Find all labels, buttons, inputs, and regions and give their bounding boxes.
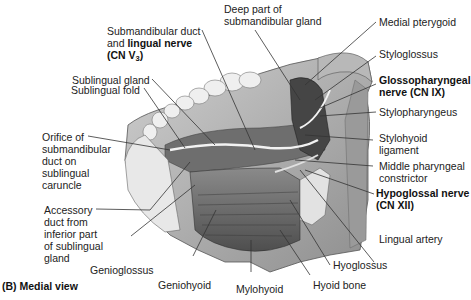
label-hypoglossal-nerve: Hypoglossal nerve (CN XII) <box>376 187 469 211</box>
label-genioglossus: Genioglossus <box>90 264 154 276</box>
label-hyoid-bone: Hyoid bone <box>313 279 366 291</box>
label-accessory-duct: Accessory duct from inferior part of sub… <box>44 204 103 264</box>
anatomy-figure: Submandibular duct and lingual nerve (CN… <box>0 0 471 300</box>
label-medial-pterygoid: Medial pterygoid <box>379 16 456 28</box>
label-mylohyoid: Mylohyoid <box>236 283 283 295</box>
label-orifice-submandibular-duct: Orifice of submandibular duct on subling… <box>42 131 111 191</box>
panel-label: (B) Medial view <box>2 280 78 292</box>
label-submandibular-duct: Submandibular duct and lingual nerve (CN… <box>107 25 200 61</box>
label-deep-part-submandibular-gland: Deep part of submandibular gland <box>224 3 321 27</box>
label-styloglossus: Styloglossus <box>379 48 438 60</box>
label-hyoglossus: Hyoglossus <box>333 259 387 271</box>
label-geniohyoid: Geniohyoid <box>158 279 211 291</box>
label-glossopharyngeal-nerve: Glossopharyngeal nerve (CN IX) <box>379 74 471 98</box>
label-stylopharyngeus: Stylopharyngeus <box>379 106 457 118</box>
label-stylohyoid-ligament: Stylohyoid ligament <box>379 132 427 156</box>
label-middle-pharyngeal-constrictor: Middle pharyngeal constrictor <box>379 160 465 184</box>
label-lingual-artery: Lingual artery <box>379 233 443 245</box>
label-sublingual-fold: Sublingual fold <box>71 84 140 96</box>
